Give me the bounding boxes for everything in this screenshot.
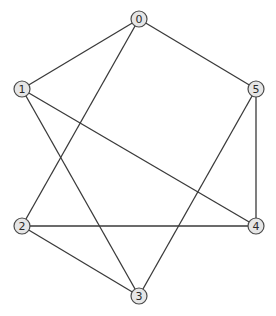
node-label: 2 xyxy=(19,220,26,233)
edge-5-3 xyxy=(139,89,256,296)
node-label: 0 xyxy=(136,13,143,26)
node-3: 3 xyxy=(131,288,147,304)
node-label: 3 xyxy=(136,290,143,303)
node-2: 2 xyxy=(14,218,30,234)
edge-1-3 xyxy=(22,89,139,296)
node-5: 5 xyxy=(248,81,264,97)
graph-canvas: 012345 xyxy=(0,0,276,316)
edge-2-3 xyxy=(22,226,139,296)
node-4: 4 xyxy=(248,218,264,234)
node-1: 1 xyxy=(14,81,30,97)
node-label: 5 xyxy=(253,83,260,96)
edges-layer xyxy=(22,19,256,296)
edge-0-1 xyxy=(22,19,139,89)
node-label: 1 xyxy=(19,83,26,96)
node-0: 0 xyxy=(131,11,147,27)
edge-0-5 xyxy=(139,19,256,89)
edge-1-4 xyxy=(22,89,256,226)
node-label: 4 xyxy=(253,220,260,233)
